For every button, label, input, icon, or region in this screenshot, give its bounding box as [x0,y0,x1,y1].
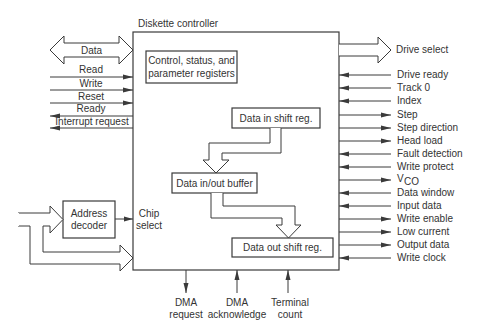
control-registers-block: Control, status, and parameter registers [146,51,237,83]
right-signal-track-0: Track 0 [339,82,430,93]
svg-text:Terminal: Terminal [271,297,309,308]
bottom-signal-terminal-count: Terminal count [271,270,309,320]
svg-text:Step direction: Step direction [397,122,458,133]
svg-text:Track 0: Track 0 [397,82,430,93]
svg-text:count: count [278,309,303,320]
svg-text:Step: Step [397,109,418,120]
right-signal-head-load: Head load [339,135,443,146]
svg-text:Head load: Head load [397,135,443,146]
svg-text:CO: CO [404,176,419,187]
svg-text:select: select [136,220,162,231]
bottom-signal-dma-acknowledge: DMA acknowledge [208,270,267,320]
svg-text:Write enable: Write enable [397,213,453,224]
svg-text:Write clock: Write clock [397,252,447,263]
svg-text:Index: Index [397,95,421,106]
right-signal-low-current: Low current [339,226,449,237]
svg-text:Data: Data [81,45,103,56]
svg-text:Data window: Data window [397,187,455,198]
address-decoder-block: Address decoder [63,201,115,238]
svg-text:parameter registers: parameter registers [148,68,235,79]
svg-text:Write protect: Write protect [397,161,454,172]
svg-text:Write: Write [79,78,103,89]
right-signal-fault-detection: Fault detection [339,148,463,159]
chip-select-signal: Chip select [115,208,162,231]
right-signal-write-enable: Write enable [339,213,453,224]
right-signal-step-direction: Step direction [339,122,458,133]
svg-text:request: request [169,309,203,320]
svg-text:Output data: Output data [397,239,450,250]
svg-text:Address: Address [71,208,108,219]
left-signal-interrupt-request: Interrupt request [50,116,133,131]
svg-text:Drive ready: Drive ready [397,69,448,80]
right-signal-output-data: Output data [339,239,450,250]
data-bus-arrow: Data [50,36,133,64]
right-signal-vco: V CO [339,173,419,187]
bottom-signal-dma-request: DMA request [169,270,203,320]
svg-text:Data out shift reg.: Data out shift reg. [243,242,322,253]
right-signal-input-data: Input data [339,200,442,211]
svg-text:Interrupt request: Interrupt request [55,116,129,127]
right-signal-index: Index [339,95,421,106]
svg-text:Input data: Input data [397,200,442,211]
svg-text:DMA: DMA [226,297,249,308]
svg-text:Read: Read [79,64,103,75]
diagram-title: Diskette controller [138,18,219,29]
right-signal-step: Step [339,109,418,120]
svg-text:Drive select: Drive select [396,44,448,55]
svg-text:Data in/out buffer: Data in/out buffer [176,178,253,189]
diskette-controller-diagram: Diskette controller Control, status, and… [0,0,477,336]
svg-text:Control, status, and: Control, status, and [148,55,235,66]
right-signal-drive-ready: Drive ready [339,69,448,80]
svg-text:decoder: decoder [71,220,108,231]
svg-text:Low current: Low current [397,226,449,237]
data-out-shift-register: Data out shift reg. [232,238,333,257]
svg-text:acknowledge: acknowledge [208,309,267,320]
drive-select-arrow: Drive select [339,37,448,63]
svg-text:DMA: DMA [175,297,198,308]
data-buffer-block: Data in/out buffer [172,173,257,193]
svg-text:V: V [397,173,404,184]
svg-text:Data in shift reg.: Data in shift reg. [240,113,313,124]
svg-text:Reset: Reset [78,91,104,102]
svg-text:Chip: Chip [139,208,160,219]
svg-text:Fault detection: Fault detection [397,148,463,159]
svg-text:Ready: Ready [77,103,106,114]
right-signal-write-protect: Write protect [339,161,454,172]
data-in-shift-register: Data in shift reg. [232,108,320,128]
right-signal-data-window: Data window [339,187,455,198]
right-signal-write-clock: Write clock [339,252,447,263]
